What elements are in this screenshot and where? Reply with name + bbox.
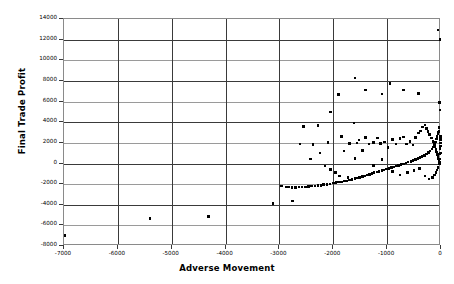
tick-mark-x	[117, 245, 118, 249]
tick-mark-y	[59, 204, 63, 205]
data-point	[418, 167, 421, 170]
data-point	[419, 130, 422, 133]
data-point	[317, 124, 320, 127]
gridline-vertical	[279, 19, 280, 244]
gridline-horizontal	[64, 102, 439, 103]
data-point	[358, 139, 361, 142]
gridline-horizontal	[64, 81, 439, 82]
data-point	[417, 92, 420, 95]
data-point	[413, 169, 416, 172]
data-point	[402, 136, 405, 139]
data-point	[326, 183, 329, 186]
data-point	[368, 143, 371, 146]
x-tick-label: -7000	[43, 251, 83, 257]
gridline-horizontal	[64, 184, 439, 185]
data-point	[389, 82, 392, 85]
data-point	[409, 140, 412, 143]
data-point	[343, 150, 346, 153]
tick-mark-y	[59, 39, 63, 40]
data-point	[291, 200, 294, 203]
y-tick-label: -4000	[11, 201, 57, 207]
data-point	[149, 217, 152, 220]
data-point	[439, 109, 442, 112]
chart-root: Final Trade Profit -8000-6000-4000-20000…	[0, 0, 454, 284]
data-point	[439, 152, 442, 155]
x-tick-label: 0	[420, 251, 454, 257]
data-point	[431, 176, 434, 179]
gridline-horizontal	[64, 164, 439, 165]
data-point	[310, 185, 313, 188]
data-point	[361, 149, 364, 152]
x-tick-label: -3000	[258, 251, 298, 257]
tick-mark-x	[386, 245, 387, 249]
data-point	[395, 143, 398, 146]
y-tick-label: 8000	[11, 77, 57, 83]
tick-mark-y	[59, 101, 63, 102]
data-point	[383, 141, 386, 144]
tick-mark-x	[440, 245, 441, 249]
data-point	[436, 169, 439, 172]
y-tick-label: -8000	[11, 242, 57, 248]
data-point	[307, 185, 310, 188]
tick-mark-x	[278, 245, 279, 249]
tick-mark-y	[59, 80, 63, 81]
gridline-vertical	[118, 19, 119, 244]
tick-mark-y	[59, 59, 63, 60]
y-tick-label: 2000	[11, 139, 57, 145]
y-tick-label: 0	[11, 160, 57, 166]
data-point	[301, 186, 304, 189]
y-axis-title: Final Trade Profit	[17, 31, 27, 191]
data-point	[381, 158, 384, 161]
data-point	[428, 178, 431, 181]
x-tick-label: -1000	[366, 251, 406, 257]
data-point	[354, 77, 357, 80]
data-point	[406, 171, 409, 174]
data-point	[302, 125, 305, 128]
data-point	[353, 122, 356, 125]
gridline-vertical	[172, 19, 173, 244]
gridline-vertical	[226, 19, 227, 244]
data-point	[381, 93, 384, 96]
gridline-horizontal	[64, 225, 439, 226]
data-point	[364, 136, 367, 139]
data-point	[364, 89, 367, 92]
data-point	[436, 135, 439, 138]
data-point	[340, 135, 343, 138]
x-axis-title: Adverse Movement	[0, 263, 454, 273]
data-point	[379, 142, 382, 145]
data-point	[439, 147, 442, 150]
x-tick-label: -6000	[97, 251, 137, 257]
tick-mark-y	[59, 183, 63, 184]
data-point	[348, 142, 351, 145]
data-point	[399, 137, 402, 140]
x-tick-label: -5000	[151, 251, 191, 257]
data-point	[299, 143, 302, 146]
data-point	[314, 185, 317, 188]
data-point	[391, 170, 394, 173]
gridline-vertical	[387, 19, 388, 244]
data-point	[399, 174, 402, 177]
data-point	[319, 152, 322, 155]
data-point	[439, 145, 442, 148]
y-tick-label: 10000	[11, 56, 57, 62]
data-point	[294, 186, 297, 189]
data-point	[372, 141, 375, 144]
y-tick-label: 6000	[11, 98, 57, 104]
data-point	[387, 146, 390, 149]
data-point	[280, 185, 283, 188]
data-point	[391, 138, 394, 141]
data-point	[438, 130, 441, 133]
data-point	[405, 143, 408, 146]
data-point	[347, 176, 350, 179]
data-point	[322, 183, 325, 186]
data-point	[437, 166, 440, 169]
data-point	[334, 171, 337, 174]
y-tick-label: 12000	[11, 36, 57, 42]
tick-mark-y	[59, 163, 63, 164]
gridline-horizontal	[64, 60, 439, 61]
y-tick-label: -2000	[11, 180, 57, 186]
data-point	[428, 133, 431, 136]
data-point	[438, 126, 441, 129]
tick-mark-y	[59, 224, 63, 225]
plot-area	[63, 18, 440, 245]
